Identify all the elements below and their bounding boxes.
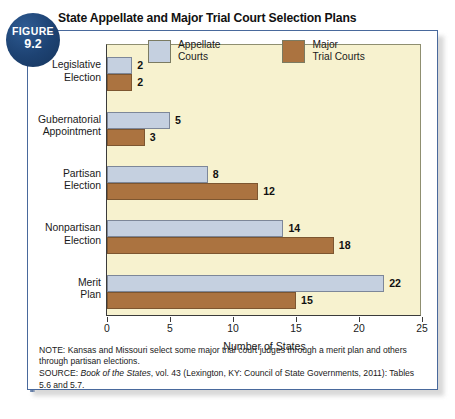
bar-value-label: 12 (263, 183, 275, 200)
bar-major[interactable] (107, 292, 296, 309)
footnotes-block: NOTE: Kansas and Missouri select some ma… (39, 345, 427, 391)
x-axis-tick (233, 317, 234, 322)
plot-area: Legislative ElectionGubernatorial Appoin… (106, 44, 421, 316)
x-axis-tick-label: 25 (416, 323, 428, 334)
bar-major[interactable] (107, 129, 145, 146)
bar-major[interactable] (107, 74, 132, 91)
x-axis-tick-label: 0 (104, 323, 110, 334)
figure-number-badge: FIGURE 9.2 (6, 13, 60, 67)
bar-appellate[interactable] (107, 166, 208, 183)
bar-value-label: 15 (301, 292, 313, 309)
x-axis-tick-label: 10 (227, 323, 239, 334)
x-axis-tick (170, 317, 171, 322)
bar-appellate[interactable] (107, 220, 283, 237)
source-text: SOURCE: Book of the States, vol. 43 (Lex… (39, 368, 427, 390)
figure-panel: Appellate Courts Major Trial Courts Legi… (27, 30, 438, 390)
x-axis-tick (422, 317, 423, 322)
figure-title: State Appellate and Major Trial Court Se… (58, 10, 438, 26)
bar-major[interactable] (107, 183, 258, 200)
bar-major[interactable] (107, 237, 334, 254)
bar-value-label: 2 (137, 74, 143, 91)
category-label: Nonpartisan Election (0, 222, 101, 247)
bar-value-label: 14 (288, 220, 300, 237)
bar-value-label: 18 (339, 237, 351, 254)
legend-item-major-trial-courts: Major Trial Courts (282, 39, 364, 63)
category-label: Merit Plan (0, 277, 101, 302)
bar-value-label: 22 (389, 275, 401, 292)
category-label: Legislative Election (0, 59, 101, 84)
category-axis-labels: Legislative ElectionGubernatorial Appoin… (0, 45, 101, 317)
bar-value-label: 3 (150, 129, 156, 146)
x-axis-tick-label: 20 (353, 323, 365, 334)
category-label: Gubernatorial Appointment (0, 114, 101, 139)
figure-badge-word: FIGURE (6, 25, 60, 37)
legend-swatch-major-trial-courts (282, 40, 305, 63)
figure-badge-number: 9.2 (6, 37, 60, 52)
bar-value-label: 8 (213, 166, 219, 183)
legend-label-major-trial-courts: Major Trial Courts (312, 39, 364, 63)
source-prefix: SOURCE: (39, 368, 78, 378)
x-axis-tick (107, 317, 108, 322)
x-axis-tick (359, 317, 360, 322)
bar-appellate[interactable] (107, 275, 384, 292)
bar-value-label: 5 (175, 112, 181, 129)
bar-appellate[interactable] (107, 57, 132, 74)
x-axis-tick-label: 15 (290, 323, 302, 334)
note-text: NOTE: Kansas and Missouri select some ma… (39, 345, 427, 367)
legend-swatch-appellate-courts (148, 40, 171, 63)
legend-item-appellate-courts: Appellate Courts (148, 39, 220, 63)
bar-appellate[interactable] (107, 112, 170, 129)
bar-value-label: 2 (137, 57, 143, 74)
bars-container: 225381214182215 (107, 45, 420, 315)
chart-legend: Appellate Courts Major Trial Courts (148, 39, 365, 63)
x-axis-tick-label: 5 (167, 323, 173, 334)
legend-label-appellate-courts: Appellate Courts (178, 39, 220, 63)
category-label: Partisan Election (0, 168, 101, 193)
x-axis-tick (296, 317, 297, 322)
source-title-italic: Book of the States (81, 368, 151, 378)
figure-container: FIGURE 9.2 State Appellate and Major Tri… (0, 0, 455, 419)
